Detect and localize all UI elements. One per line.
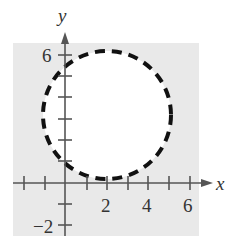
x-tick-6: 6 (183, 195, 193, 216)
x-tick-4: 4 (142, 195, 152, 216)
x-axis-label: x (215, 173, 225, 194)
x-tick-2: 2 (101, 195, 111, 216)
y-tick-6: 6 (42, 45, 52, 66)
dashed-circle (43, 51, 171, 179)
y-axis-label: y (56, 5, 67, 26)
y-tick-neg2: −2 (33, 216, 53, 237)
inequality-graph: y x 2 4 6 6 −2 (0, 0, 226, 241)
x-axis-arrow-icon (201, 179, 213, 187)
y-axis-arrow-icon (61, 32, 69, 44)
